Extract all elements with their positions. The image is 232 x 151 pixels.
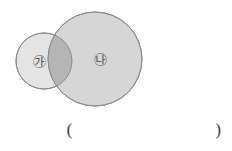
set-b-label: ㉯ <box>94 52 107 67</box>
set-a-label: ㉮ <box>33 54 46 69</box>
answer-blank[interactable] <box>78 120 214 142</box>
answer-open-paren: ( <box>66 120 73 140</box>
answer-close-paren: ) <box>215 120 222 140</box>
